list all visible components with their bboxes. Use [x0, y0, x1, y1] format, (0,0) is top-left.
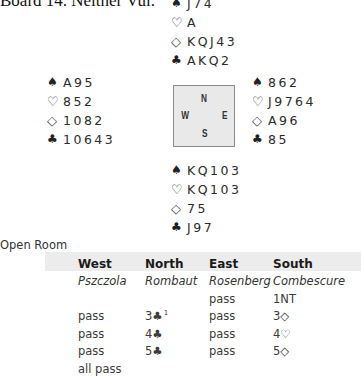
north-hand: ♠J74 ♡A ◇KQJ43 ♣AKQ2 — [171, 0, 237, 70]
diamond-icon: ◇ — [171, 199, 187, 218]
diamond-icon: ◇ — [252, 111, 268, 130]
player-south: Combescure — [273, 274, 339, 288]
bid: 3◇ — [273, 309, 339, 323]
auction-row: pass 3♣1 pass 3◇ — [78, 308, 361, 326]
south-diamonds: ◇75 — [171, 199, 241, 218]
player-west: Pszczola — [78, 274, 145, 288]
east-spades: ♠862 — [252, 73, 316, 92]
east-diamonds: ◇A96 — [252, 111, 316, 130]
west-spades: ♠A95 — [47, 73, 115, 92]
compass-box: N W E S — [173, 85, 235, 147]
bid: pass — [78, 327, 145, 341]
footnote-marker: 1 — [164, 309, 168, 317]
bid: 4♣ — [145, 327, 209, 341]
compass-west: W — [181, 109, 189, 121]
west-hand: ♠A95 ♡852 ◇1082 ♣10643 — [47, 73, 115, 149]
bid: 1NT — [273, 292, 339, 306]
spade-icon: ♠ — [171, 161, 187, 180]
room-label: Open Room — [0, 238, 67, 252]
club-icon: ♣ — [171, 218, 187, 237]
diamond-icon: ◇ — [47, 111, 63, 130]
bid: 5♣ — [145, 344, 209, 358]
bid: 3♣ — [145, 309, 163, 323]
club-icon: ♣ — [47, 130, 63, 149]
west-hearts: ♡852 — [47, 92, 115, 111]
north-diamonds: ◇KQJ43 — [171, 32, 237, 51]
compass-south: S — [202, 127, 208, 139]
auction-row: pass 5♣ pass 5◇ — [78, 343, 361, 361]
north-clubs: ♣AKQ2 — [171, 51, 237, 70]
club-icon: ♣ — [171, 51, 187, 70]
compass-east: E — [222, 109, 228, 121]
auction-row: pass 4♣ pass 4♡ — [78, 325, 361, 343]
east-hand: ♠862 ♡J9764 ◇A96 ♣85 — [252, 73, 316, 149]
player-east: Rosenberg — [209, 274, 273, 288]
bid: pass — [78, 344, 145, 358]
header-north: North — [145, 257, 209, 271]
bid: 5◇ — [273, 344, 339, 358]
header-east: East — [209, 257, 273, 271]
bid: 4♡ — [273, 327, 339, 341]
west-diamonds: ◇1082 — [47, 111, 115, 130]
diamond-icon: ◇ — [171, 32, 187, 51]
south-hand: ♠KQ103 ♡KQ103 ◇75 ♣J97 — [171, 161, 241, 237]
south-clubs: ♣J97 — [171, 218, 241, 237]
bid: pass — [209, 292, 273, 306]
player-north: Rombaut — [145, 274, 209, 288]
auction-row: pass 1NT — [78, 290, 361, 308]
auction-header-row: West North East South — [78, 255, 361, 273]
spade-icon: ♠ — [252, 73, 268, 92]
bid: pass — [209, 309, 273, 323]
auction-row: all pass — [78, 360, 361, 378]
east-clubs: ♣85 — [252, 130, 316, 149]
club-icon: ♣ — [252, 130, 268, 149]
south-spades: ♠KQ103 — [171, 161, 241, 180]
heart-icon: ♡ — [47, 92, 63, 111]
spade-icon: ♠ — [171, 0, 187, 13]
south-hearts: ♡KQ103 — [171, 180, 241, 199]
header-west: West — [78, 257, 145, 271]
west-clubs: ♣10643 — [47, 130, 115, 149]
heart-icon: ♡ — [252, 92, 268, 111]
bid: pass — [78, 309, 145, 323]
heart-icon: ♡ — [171, 180, 187, 199]
header-south: South — [273, 257, 339, 271]
heart-icon: ♡ — [171, 13, 187, 32]
auction-players-row: Pszczola Rombaut Rosenberg Combescure — [78, 273, 361, 291]
bid: pass — [209, 344, 273, 358]
spade-icon: ♠ — [47, 73, 63, 92]
east-hearts: ♡J9764 — [252, 92, 316, 111]
board-title: Board 14. Neither Vul. — [0, 0, 155, 11]
bid: all pass — [78, 362, 145, 376]
north-spades: ♠J74 — [171, 0, 237, 13]
north-hearts: ♡A — [171, 13, 237, 32]
bid: pass — [209, 327, 273, 341]
bid-with-footnote: 3♣1 — [145, 309, 209, 323]
compass-north: N — [201, 92, 207, 104]
auction-table: West North East South Pszczola Rombaut R… — [78, 255, 361, 378]
